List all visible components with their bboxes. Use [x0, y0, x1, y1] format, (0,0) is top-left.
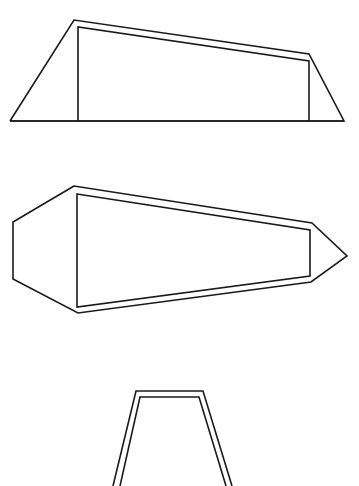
figure-3-inner-outline	[120, 397, 226, 486]
figure-2	[13, 186, 347, 313]
diagram-canvas	[0, 0, 359, 486]
figure-1-inner-outline	[78, 27, 309, 121]
figure-3	[113, 391, 232, 486]
figure-1-outer-outline	[10, 20, 344, 121]
figure-1	[10, 20, 344, 121]
figure-2-inner-outline	[77, 194, 310, 307]
